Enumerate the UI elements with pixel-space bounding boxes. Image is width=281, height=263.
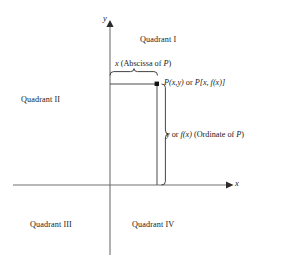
abscissa-description: (Abscissa of [119, 59, 164, 68]
coordinate-plane-figure: y x Quadrant I Quadrant II Quadrant III … [0, 0, 281, 263]
ordinate-conjunction: or [170, 130, 181, 139]
quadrant-4-label: Quadrant IV [132, 221, 174, 229]
ordinate-function: f(x) [181, 130, 192, 139]
quadrant-2-label: Quadrant II [21, 96, 60, 104]
x-axis-arrowhead [226, 181, 234, 188]
point-p-marker [155, 82, 159, 86]
abscissa-annotation: x (Abscissa of P) [115, 60, 171, 68]
ordinate-close-paren: ) [241, 130, 244, 139]
quadrant-3-label: Quadrant III [30, 221, 72, 229]
abscissa-close-paren: ) [168, 59, 171, 68]
quadrant-1-label: Quadrant I [140, 36, 176, 44]
ordinate-description: (Ordinate of [192, 130, 236, 139]
point-p-annotation: P(x,y) or P[x, f(x)] [164, 79, 225, 87]
y-axis-arrowhead [106, 20, 113, 27]
point-label-conjunction: or [184, 78, 195, 87]
y-axis-label: y [103, 14, 107, 23]
point-label-coords: P(x,y) [164, 78, 184, 87]
ordinate-annotation: y or f(x) (Ordinate of P) [166, 131, 244, 139]
abscissa-brace [110, 69, 158, 76]
point-label-function-form: P[x, f(x)] [195, 78, 225, 87]
x-axis-label: x [235, 179, 239, 188]
